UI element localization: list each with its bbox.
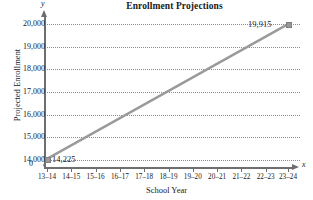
y-tick-label-20000: 20,000 xyxy=(0,20,45,28)
gridline-16000 xyxy=(45,115,300,116)
y-axis-arrow-icon xyxy=(41,10,47,17)
y-tick-label-14000: 14,000 xyxy=(0,156,45,164)
origin-label: 0 xyxy=(29,160,33,168)
x-tick-label-23-24: 23–24 xyxy=(266,173,310,181)
x-tick-mark xyxy=(169,168,170,172)
gridline-18000 xyxy=(45,69,300,70)
y-tick-label-17000: 17,000 xyxy=(0,88,45,96)
x-tick-mark xyxy=(217,168,218,172)
plot-area xyxy=(45,24,288,160)
chart-screenshot: Enrollment Projections y x 20,000 19,000… xyxy=(0,0,313,200)
gridline-15000 xyxy=(45,137,300,138)
x-tick-mark xyxy=(71,168,72,172)
y-tick-label-18000: 18,000 xyxy=(0,65,45,73)
y-tick-label-19000: 19,000 xyxy=(0,43,45,51)
x-tick-mark xyxy=(120,168,121,172)
x-axis-arrow-icon xyxy=(292,164,299,170)
x-tick-mark xyxy=(266,168,267,172)
y-axis-variable-label: y xyxy=(41,0,45,8)
y-tick-label-16000: 16,000 xyxy=(0,111,45,119)
x-tick-mark xyxy=(241,168,242,172)
gridline-17000 xyxy=(45,92,300,93)
x-axis-title: School Year xyxy=(45,185,288,195)
data-point-marker-end xyxy=(286,22,292,28)
data-label-19915: 19,915 xyxy=(248,20,271,29)
y-axis-title: Projected Enrollment xyxy=(12,30,22,140)
gridline-14000 xyxy=(45,160,300,161)
data-label-14225: 14,225 xyxy=(52,155,75,164)
gridline-19000 xyxy=(45,47,300,48)
data-point-marker-start xyxy=(45,157,51,163)
x-tick-mark xyxy=(144,168,145,172)
x-axis-variable-label: x xyxy=(302,160,306,169)
x-tick-mark xyxy=(193,168,194,172)
x-tick-mark xyxy=(47,168,48,172)
x-tick-mark xyxy=(96,168,97,172)
y-tick-label-15000: 15,000 xyxy=(0,133,45,141)
x-tick-mark xyxy=(288,168,289,172)
